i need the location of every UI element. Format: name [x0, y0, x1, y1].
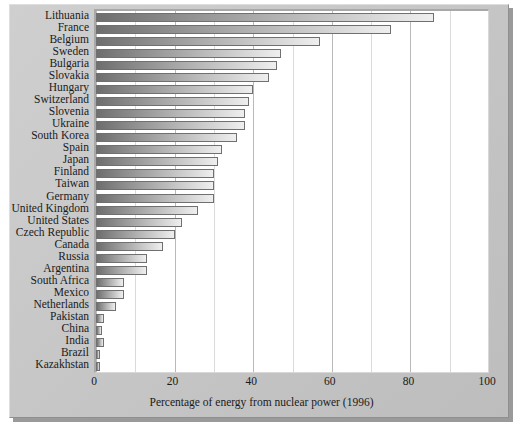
y-label-czech-republic: Czech Republic [16, 227, 89, 238]
x-tick-20: 20 [167, 375, 179, 387]
y-label-germany: Germany [46, 191, 89, 202]
bar-row [96, 314, 104, 323]
x-tick-100: 100 [478, 375, 495, 387]
y-label-united-states: United States [27, 215, 89, 226]
y-label-south-korea: South Korea [31, 130, 89, 141]
y-label-brazil: Brazil [61, 347, 89, 358]
bar-south-africa [96, 278, 124, 287]
y-label-russia: Russia [58, 251, 89, 262]
bar-czech-republic [96, 230, 175, 239]
bar-row [96, 242, 163, 251]
y-label-china: China [62, 323, 89, 334]
x-axis-title: Percentage of energy from nuclear power … [0, 396, 523, 408]
bar-hungary [96, 85, 253, 94]
bar-row [96, 25, 391, 34]
bar-ukraine [96, 121, 245, 130]
bar-south-korea [96, 133, 237, 142]
y-label-slovenia: Slovenia [49, 106, 89, 117]
bar-row [96, 350, 100, 359]
y-label-india: India [65, 335, 89, 346]
bar-row [96, 73, 269, 82]
bar-row [96, 206, 198, 215]
x-tick-0: 0 [91, 375, 97, 387]
bar-row [96, 266, 147, 275]
bar-brazil [96, 350, 100, 359]
y-label-slovakia: Slovakia [49, 70, 89, 81]
bar-united-states [96, 218, 182, 227]
bar-row [96, 278, 124, 287]
bar-row [96, 362, 100, 371]
bar-mexico [96, 290, 124, 299]
figure-root: LithuaniaFranceBelgiumSwedenBulgariaSlov… [0, 0, 523, 431]
plot-area [96, 11, 488, 372]
y-label-switzerland: Switzerland [34, 94, 89, 105]
bar-row [96, 49, 281, 58]
y-label-lithuania: Lithuania [45, 10, 89, 21]
plot-frame [94, 9, 489, 373]
bar-row [96, 302, 116, 311]
bar-lithuania [96, 13, 434, 22]
bar-china [96, 326, 102, 335]
bar-pakistan [96, 314, 104, 323]
bar-row [96, 145, 222, 154]
bar-row [96, 133, 237, 142]
bar-finland [96, 169, 214, 178]
bar-slovenia [96, 109, 245, 118]
y-label-taiwan: Taiwan [55, 178, 89, 189]
y-label-france: France [58, 22, 89, 33]
bar-france [96, 25, 391, 34]
bar-russia [96, 254, 147, 263]
bar-row [96, 109, 245, 118]
bar-switzerland [96, 97, 249, 106]
y-label-south-africa: South Africa [31, 275, 89, 286]
x-tick-80: 80 [403, 375, 415, 387]
bar-series [96, 11, 488, 372]
y-label-sweden: Sweden [53, 46, 89, 57]
bar-sweden [96, 49, 281, 58]
bar-row [96, 37, 320, 46]
x-tick-40: 40 [245, 375, 257, 387]
y-label-ukraine: Ukraine [52, 118, 89, 129]
y-label-kazakhstan: Kazakhstan [35, 359, 89, 370]
y-label-pakistan: Pakistan [50, 311, 89, 322]
y-label-mexico: Mexico [54, 287, 89, 298]
y-label-hungary: Hungary [49, 82, 89, 93]
bar-row [96, 13, 434, 22]
bar-row [96, 230, 175, 239]
bar-row [96, 121, 245, 130]
x-tick-60: 60 [324, 375, 336, 387]
bar-row [96, 290, 124, 299]
y-label-bulgaria: Bulgaria [49, 58, 89, 69]
bar-india [96, 338, 104, 347]
y-label-spain: Spain [63, 142, 89, 153]
bar-row [96, 97, 249, 106]
bar-row [96, 169, 214, 178]
y-label-belgium: Belgium [49, 34, 89, 45]
bar-kazakhstan [96, 362, 100, 371]
y-label-netherlands: Netherlands [33, 299, 89, 310]
bar-row [96, 157, 218, 166]
y-label-finland: Finland [54, 166, 89, 177]
bar-row [96, 61, 277, 70]
bar-row [96, 85, 253, 94]
bar-row [96, 181, 214, 190]
bar-belgium [96, 37, 320, 46]
y-label-united-kingdom: United Kingdom [11, 203, 89, 214]
bar-slovakia [96, 73, 269, 82]
bar-canada [96, 242, 163, 251]
bar-united-kingdom [96, 206, 198, 215]
bar-row [96, 254, 147, 263]
x-axis-tick-labels: 020406080100 [94, 375, 489, 391]
bar-spain [96, 145, 222, 154]
bar-netherlands [96, 302, 116, 311]
y-label-canada: Canada [55, 239, 89, 250]
bar-row [96, 218, 182, 227]
bar-row [96, 326, 102, 335]
bar-taiwan [96, 181, 214, 190]
y-label-japan: Japan [63, 154, 89, 165]
bar-germany [96, 194, 214, 203]
y-label-argentina: Argentina [43, 263, 89, 274]
bar-row [96, 194, 214, 203]
bar-japan [96, 157, 218, 166]
bar-row [96, 338, 104, 347]
